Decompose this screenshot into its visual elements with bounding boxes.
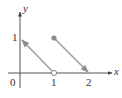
x-tick-2-label: 2 [86, 77, 92, 88]
x-tick-1-label: 1 [51, 77, 57, 88]
segment-1-line [22, 40, 52, 71]
filled-circle-marker [51, 35, 56, 40]
x-axis-label: x [114, 66, 119, 77]
open-circle-marker [51, 70, 56, 75]
piecewise-graph [0, 0, 122, 98]
y-tick-1-label: 1 [12, 32, 18, 43]
origin-label: 0 [10, 77, 16, 88]
segment-2-line [54, 38, 88, 72]
y-axis-label: y [23, 3, 28, 14]
